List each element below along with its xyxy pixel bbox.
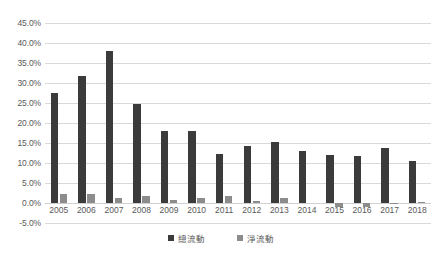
- x-axis-tick-label: 2009: [155, 205, 183, 215]
- chart-legend: 總流動淨流動: [0, 232, 442, 244]
- x-axis-tick-label: 2012: [238, 205, 266, 215]
- bar-group: [210, 23, 238, 223]
- square-marker-icon: [168, 235, 174, 241]
- bars-layer: [45, 23, 431, 223]
- bar-net-flow: [87, 194, 95, 203]
- legend-item-label: 淨流動: [247, 232, 274, 244]
- x-axis-tick-label: 2015: [321, 205, 349, 215]
- y-axis-tick-label: 0.0%: [22, 198, 41, 208]
- bar-total-flow: [161, 131, 169, 203]
- bar-net-flow: [225, 196, 233, 203]
- bar-total-flow: [216, 154, 224, 203]
- bar-group: [376, 23, 404, 223]
- x-axis-tick-label: 2017: [376, 205, 404, 215]
- bar-group: [293, 23, 321, 223]
- square-marker-icon: [237, 235, 243, 241]
- y-axis-tick-label: 25.0%: [17, 98, 41, 108]
- bar-group: [321, 23, 349, 223]
- bar-total-flow: [106, 51, 114, 203]
- bar-total-flow: [354, 156, 362, 203]
- bar-total-flow: [188, 131, 196, 203]
- bar-group: [266, 23, 294, 223]
- bar-total-flow: [244, 146, 252, 203]
- x-axis-tick-label: 2014: [293, 205, 321, 215]
- y-axis-tick-label: 35.0%: [17, 58, 41, 68]
- bar-group: [45, 23, 73, 223]
- bar-group: [73, 23, 101, 223]
- bar-net-flow: [170, 200, 178, 203]
- x-axis-tick-label: 2007: [100, 205, 128, 215]
- bar-net-flow: [60, 194, 68, 203]
- bar-net-flow: [418, 202, 426, 203]
- x-axis-tick-label: 2005: [45, 205, 73, 215]
- legend-item[interactable]: 總流動: [168, 232, 205, 244]
- bar-net-flow: [115, 198, 123, 203]
- gridline: [45, 223, 431, 224]
- y-axis-tick-label: 15.0%: [17, 138, 41, 148]
- x-axis-tick-label: 2010: [183, 205, 211, 215]
- bar-net-flow: [253, 201, 261, 203]
- bar-group: [403, 23, 431, 223]
- y-axis-tick-label: 40.0%: [17, 38, 41, 48]
- bar-group: [348, 23, 376, 223]
- y-axis-tick-label: 5.0%: [22, 178, 41, 188]
- y-axis-tick-label: 45.0%: [17, 18, 41, 28]
- x-axis-tick-label: 2016: [348, 205, 376, 215]
- y-axis-tick-label: 30.0%: [17, 78, 41, 88]
- bar-net-flow: [280, 198, 288, 203]
- x-axis-tick-label: 2018: [403, 205, 431, 215]
- y-axis-tick-label: -5.0%: [19, 218, 41, 228]
- bar-total-flow: [78, 76, 86, 203]
- y-axis-tick-label: 10.0%: [17, 158, 41, 168]
- x-axis-tick-label: 2011: [210, 205, 238, 215]
- bar-group: [128, 23, 156, 223]
- bar-chart: 45.0%40.0%35.0%30.0%25.0%20.0%15.0%10.0%…: [0, 0, 442, 254]
- bar-total-flow: [271, 142, 279, 203]
- x-axis-tick-label: 2013: [266, 205, 294, 215]
- bar-total-flow: [133, 104, 141, 203]
- legend-item[interactable]: 淨流動: [237, 232, 274, 244]
- bar-group: [155, 23, 183, 223]
- x-axis-labels: 2005200620072008200920102011201220132014…: [45, 205, 431, 221]
- y-axis-tick-label: 20.0%: [17, 118, 41, 128]
- bar-group: [183, 23, 211, 223]
- y-axis-labels: 45.0%40.0%35.0%30.0%25.0%20.0%15.0%10.0%…: [0, 23, 41, 223]
- bar-net-flow: [197, 198, 205, 203]
- x-axis-tick-label: 2008: [128, 205, 156, 215]
- bar-total-flow: [381, 148, 389, 203]
- bar-total-flow: [299, 151, 307, 203]
- legend-item-label: 總流動: [178, 232, 205, 244]
- bar-group: [100, 23, 128, 223]
- bar-net-flow: [142, 196, 150, 203]
- bar-total-flow: [409, 161, 417, 203]
- bar-total-flow: [51, 93, 59, 203]
- bar-total-flow: [326, 155, 334, 203]
- x-axis-tick-label: 2006: [73, 205, 101, 215]
- bar-group: [238, 23, 266, 223]
